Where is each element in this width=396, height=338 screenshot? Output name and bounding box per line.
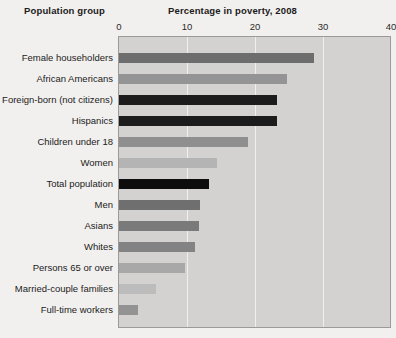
category-label-foreign-born-not-citizens: Foreign-born (not citizens) [0,95,113,105]
category-label-african-americans: African Americans [0,74,113,84]
category-label-married-couple-families: Married-couple families [0,284,113,294]
category-label-hispanics: Hispanics [0,116,113,126]
bar-children-under-18 [119,137,248,147]
bar-married-couple-families [119,284,156,294]
bar-female-householders [119,53,314,63]
category-axis-title: Population group [24,5,105,16]
category-label-persons-65-or-over: Persons 65 or over [0,263,113,273]
category-label-total-population: Total population [0,179,113,189]
bar-total-population [119,179,209,189]
bar-persons-65-or-over [119,263,185,273]
bar-hispanics [119,116,277,126]
category-label-children-under-18: Children under 18 [0,137,113,147]
category-label-women: Women [0,158,113,168]
x-axis-tick-10: 10 [182,21,193,32]
bar-full-time-workers [119,305,138,315]
category-label-whites: Whites [0,242,113,252]
x-axis-tick-labels: 010203040 [0,21,394,35]
x-axis-tick-30: 30 [318,21,329,32]
category-label-full-time-workers: Full-time workers [0,305,113,315]
x-axis-tick-20: 20 [250,21,261,32]
category-label-asians: Asians [0,221,113,231]
x-axis-tick-0: 0 [116,21,121,32]
gridline-30 [323,37,324,327]
bar-asians [119,221,199,231]
category-label-female-householders: Female householders [0,53,113,63]
category-axis-labels: Female householdersAfrican AmericansFore… [0,36,113,328]
bar-foreign-born-not-citizens [119,95,277,105]
bar-men [119,200,200,210]
plot-area [118,36,391,328]
bar-whites [119,242,195,252]
x-axis-tick-40: 40 [386,21,396,32]
value-axis-title: Percentage in poverty, 2008 [168,5,297,16]
bar-african-americans [119,74,287,84]
category-label-men: Men [0,200,113,210]
bar-women [119,158,217,168]
